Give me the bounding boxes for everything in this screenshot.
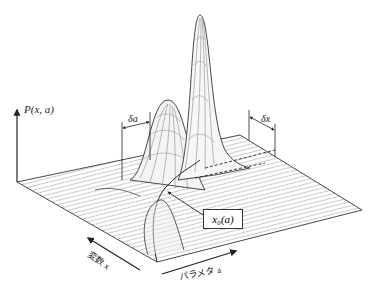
delta-a-label: δa — [128, 113, 138, 124]
vertical-axis-label: P(x, a) — [24, 103, 54, 115]
delta-x-label: δx — [261, 113, 270, 124]
surface-diagram — [0, 0, 375, 292]
x0-label-box: x₀(a) — [203, 209, 243, 229]
